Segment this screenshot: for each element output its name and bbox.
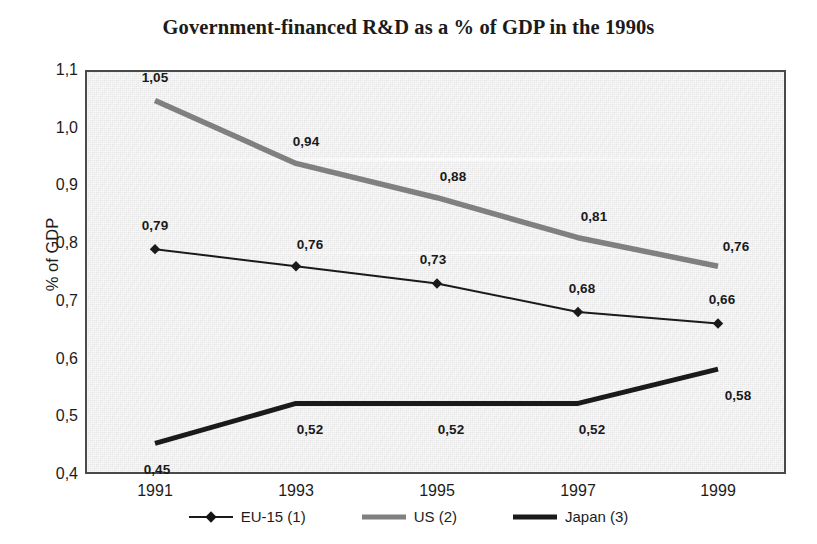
y-tick-label: 1,1: [32, 61, 78, 79]
legend-swatch-japan-icon: [513, 510, 557, 524]
data-point-label: 0,73: [420, 252, 446, 267]
data-point-label: 0,76: [297, 237, 323, 252]
plot-area: [85, 70, 786, 474]
page-title: Government-financed R&D as a % of GDP in…: [0, 16, 817, 39]
legend-item-us[interactable]: US (2): [362, 508, 457, 525]
data-point-label: 0,45: [144, 462, 170, 477]
data-point-label: 0,52: [579, 422, 605, 437]
legend-swatch-eu-15-icon: [189, 510, 233, 524]
chart-legend: EU-15 (1) US (2) Japan (3): [0, 508, 817, 525]
y-tick-label: 0,5: [32, 407, 78, 425]
data-point-label: 0,68: [569, 281, 595, 296]
legend-label-eu-15: EU-15 (1): [241, 508, 306, 525]
data-point-label: 0,52: [297, 422, 323, 437]
y-tick-label: 0,4: [32, 465, 78, 483]
y-axis-tick-labels: 1,1 1,0 0,9 0,8 0,7 0,6 0,5 0,4: [26, 0, 78, 544]
series-lines: [87, 72, 784, 472]
legend-item-eu-15[interactable]: EU-15 (1): [189, 508, 306, 525]
x-tick-label: 1997: [560, 482, 596, 500]
data-point-label: 0,52: [438, 422, 464, 437]
y-tick-label: 0,8: [32, 234, 78, 252]
legend-label-japan: Japan (3): [565, 508, 628, 525]
data-point-label: 0,79: [142, 218, 168, 233]
legend-item-japan[interactable]: Japan (3): [513, 508, 628, 525]
data-point-marker-eu-15: [713, 318, 723, 328]
data-point-label: 0,88: [440, 168, 466, 183]
x-tick-label: 1993: [278, 482, 314, 500]
y-tick-label: 0,6: [32, 350, 78, 368]
data-point-marker-eu-15: [573, 307, 583, 317]
series-line-japan: [155, 369, 718, 443]
y-tick-label: 0,9: [32, 176, 78, 194]
data-point-marker-eu-15: [432, 278, 442, 288]
data-point-label: 1,05: [142, 69, 168, 84]
data-point-label: 0,81: [581, 208, 607, 223]
data-point-label: 0,58: [725, 388, 751, 403]
y-tick-label: 1,0: [32, 119, 78, 137]
data-point-label: 0,66: [709, 292, 735, 307]
data-point-marker-eu-15: [150, 244, 160, 254]
x-tick-label: 1995: [419, 482, 455, 500]
series-line-us: [155, 101, 718, 267]
data-point-label: 0,76: [723, 239, 749, 254]
x-tick-label: 1999: [700, 482, 736, 500]
legend-swatch-us-icon: [362, 510, 406, 524]
data-point-label: 0,94: [293, 134, 319, 149]
x-tick-label: 1991: [137, 482, 173, 500]
legend-label-us: US (2): [414, 508, 457, 525]
y-tick-label: 0,7: [32, 292, 78, 310]
data-point-marker-eu-15: [291, 261, 301, 271]
chart-page: Government-financed R&D as a % of GDP in…: [0, 0, 817, 544]
